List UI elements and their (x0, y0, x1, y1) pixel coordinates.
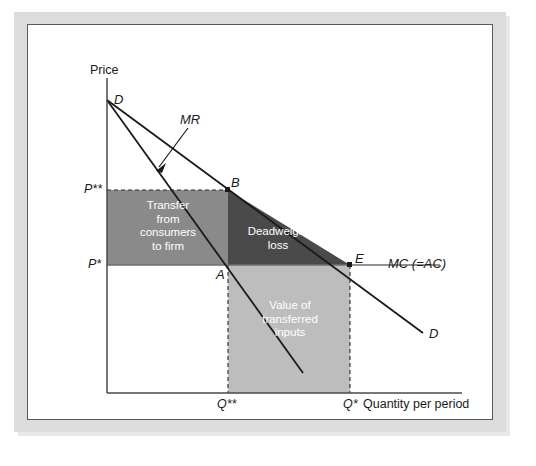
transfer-region-label: Transfer from consumers to firm (118, 199, 218, 253)
marginal-cost-label: MC (=AC) (388, 257, 446, 270)
point-e-marker (347, 262, 352, 267)
point-e-label: E (355, 252, 364, 265)
y-axis-title: Price (90, 64, 118, 77)
marginal-revenue-label: MR (180, 113, 200, 126)
mr-leader-line (159, 128, 188, 167)
x-axis-title: Quantity per period (363, 398, 469, 411)
quantity-tick-q-double-star: Q** (217, 398, 236, 411)
point-b-label: B (231, 176, 240, 189)
demand-lower-label: D (429, 327, 438, 340)
price-tick-p-star: P* (88, 258, 101, 271)
transferred-inputs-region-label: Value of transferred inputs (240, 299, 340, 340)
figure-root: Price D D MR MC (=AC) P** P* Q** Q* Quan… (0, 0, 536, 466)
point-b-marker (225, 187, 230, 192)
quantity-tick-q-star: Q* (343, 398, 358, 411)
deadweight-loss-region-label: Deadweight loss (232, 225, 324, 252)
point-a-label: A (216, 268, 225, 281)
price-tick-p-double-star: P** (84, 183, 102, 196)
demand-upper-label: D (114, 93, 123, 106)
